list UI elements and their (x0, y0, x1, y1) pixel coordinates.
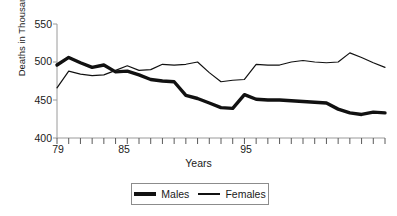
legend-label-females: Females (225, 189, 265, 200)
legend-item-females: Females (198, 189, 265, 200)
x-axis-title: Years (0, 157, 397, 169)
plot-area (0, 0, 397, 160)
x-tick-label-85: 85 (112, 143, 136, 155)
line-chart: Deaths in Thousands 550 500 450 400 79 8… (0, 0, 397, 216)
legend-label-males: Males (161, 189, 189, 200)
legend-line-icon-males (134, 192, 156, 196)
legend-item-males: Males (134, 189, 189, 200)
x-tick-label-79: 79 (46, 143, 70, 155)
legend-line-icon-females (198, 193, 220, 194)
chart-legend: Males Females (131, 183, 269, 205)
x-tick-label-95: 95 (234, 143, 258, 155)
